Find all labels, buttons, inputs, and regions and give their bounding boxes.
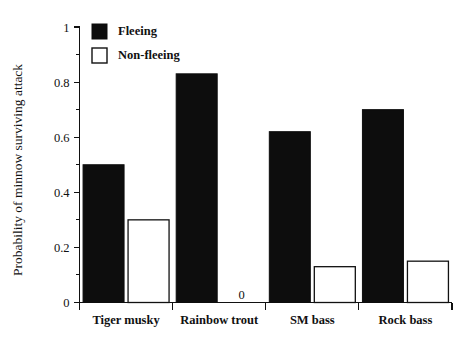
bar-open — [314, 267, 355, 303]
bar-open — [128, 220, 169, 303]
y-tick-label: 0.8 — [54, 76, 70, 90]
category-label: SM bass — [290, 313, 335, 327]
y-axis-ticks: 00.20.40.60.81 — [54, 21, 80, 311]
y-tick-label: 0.6 — [54, 131, 70, 145]
bar-series-group — [83, 74, 448, 303]
category-label: Rainbow trout — [180, 313, 259, 327]
annotation-group: 0 — [239, 288, 245, 302]
chart-legend: FleeingNon-fleeing — [92, 24, 181, 63]
bar-filled — [83, 165, 124, 303]
category-labels: Tiger muskyRainbow troutSM bassRock bass — [92, 313, 432, 327]
legend-label: Non-fleeing — [118, 48, 181, 62]
y-axis-title-group: Probability of minnow surviving attack — [10, 64, 25, 276]
legend-swatch-open — [92, 48, 107, 63]
bar-filled — [362, 110, 403, 303]
category-label: Rock bass — [379, 313, 433, 327]
y-tick-label: 0.2 — [54, 241, 70, 255]
bar-open — [407, 261, 448, 302]
y-tick-label: 0.4 — [54, 186, 70, 200]
bar-filled — [269, 132, 310, 303]
y-tick-label: 0 — [63, 296, 69, 310]
legend-label: Fleeing — [118, 24, 158, 38]
bar-chart: Probability of minnow surviving attack 0… — [0, 0, 462, 354]
x-axis-ticks — [80, 303, 453, 310]
y-axis-title: Probability of minnow surviving attack — [10, 64, 25, 276]
y-tick-label: 1 — [63, 21, 69, 35]
chart-container: Probability of minnow surviving attack 0… — [0, 0, 462, 354]
legend-swatch-filled — [92, 24, 107, 39]
zero-value-label: 0 — [239, 288, 245, 302]
bar-filled — [176, 74, 217, 303]
category-label: Tiger musky — [92, 313, 160, 327]
